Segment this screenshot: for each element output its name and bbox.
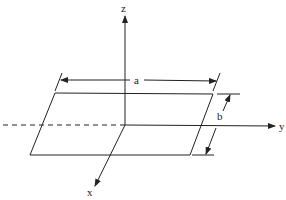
dim-b-arrow-bottom bbox=[206, 128, 216, 154]
plate-outline bbox=[30, 93, 213, 155]
dim-a-extension-left bbox=[55, 73, 62, 91]
dim-a-arrow-right bbox=[144, 80, 216, 81]
plate-diagram: a b z y x bbox=[0, 0, 286, 200]
dim-b-label: b bbox=[217, 110, 223, 122]
y-axis bbox=[125, 125, 275, 126]
dim-a-extension-right bbox=[213, 73, 220, 91]
x-axis-label: x bbox=[87, 186, 93, 198]
dim-b-arrow-top bbox=[223, 95, 230, 111]
dim-a-label: a bbox=[134, 74, 139, 86]
z-axis-label: z bbox=[121, 2, 126, 14]
y-axis-label: y bbox=[279, 120, 285, 132]
